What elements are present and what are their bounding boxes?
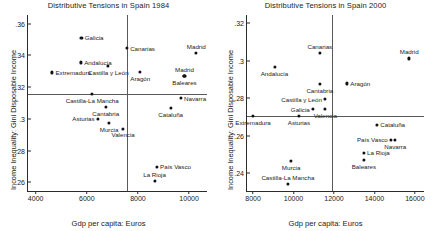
- tick-mark: [35, 191, 36, 194]
- y-axis-tick: .28: [234, 95, 247, 102]
- data-point: [155, 165, 158, 168]
- data-point-label: Cantabria: [92, 110, 119, 117]
- y-axis-tick: .26: [234, 132, 247, 139]
- data-point-label: Castilla-La Mancha: [261, 174, 314, 181]
- data-point-label: Galicia: [85, 34, 104, 41]
- y-axis-tick: .28: [15, 147, 28, 154]
- panel-spain-1984: Distributive Tensions in Spain 1984 Inco…: [0, 0, 217, 231]
- tick-mark: [247, 135, 250, 136]
- tick-mark: [374, 191, 375, 194]
- data-point-label: Cataluña: [158, 111, 183, 118]
- plot-area: .26.28.3.32.34.3640006000800010000Galici…: [27, 15, 207, 192]
- data-point-label: Aragón: [130, 75, 150, 82]
- tick-mark: [414, 191, 415, 194]
- x-axis-tick: 14000: [365, 191, 384, 202]
- data-point-label: Andalucía: [261, 70, 289, 77]
- data-point: [362, 151, 365, 154]
- tick-mark: [189, 191, 190, 194]
- x-axis-tick: 4000: [28, 191, 44, 202]
- tick-mark: [247, 98, 250, 99]
- data-point-label: Baleares: [172, 79, 196, 86]
- data-point-label: Extremadura: [55, 69, 90, 76]
- data-point-label: Canarias: [130, 45, 155, 52]
- data-point: [179, 97, 182, 100]
- data-point: [169, 106, 172, 109]
- data-point: [51, 71, 54, 74]
- data-point: [139, 70, 142, 73]
- data-point-label: País Vasco: [160, 163, 191, 170]
- data-point-label: Baleares: [352, 163, 376, 170]
- data-point: [80, 36, 83, 39]
- data-point: [323, 98, 326, 101]
- tick-mark: [247, 23, 250, 24]
- x-axis-label: Gdp per capita: Euros: [217, 219, 434, 228]
- x-axis-tick: 8000: [130, 191, 146, 202]
- data-point: [107, 121, 110, 124]
- x-axis-tick: 12000: [324, 191, 343, 202]
- data-point: [324, 108, 327, 111]
- data-point-label: Asturias: [288, 119, 310, 126]
- data-point: [389, 138, 392, 141]
- data-point: [125, 47, 128, 50]
- data-point: [408, 57, 411, 60]
- tick-mark: [28, 55, 31, 56]
- tick-mark: [28, 118, 31, 119]
- x-axis-tick: 16000: [405, 191, 424, 202]
- y-axis-tick: .24: [234, 170, 247, 177]
- data-point-label: Madrid: [400, 48, 419, 55]
- tick-mark: [247, 60, 250, 61]
- plot-area: .24.26.28.3.32800010000120001400016000Ca…: [246, 15, 424, 192]
- data-point-label: Cantabria: [306, 87, 333, 94]
- y-axis-tick: .32: [15, 84, 28, 91]
- data-point-label: Madrid: [187, 43, 206, 50]
- x-axis-tick: 10000: [284, 191, 303, 202]
- data-point: [286, 182, 289, 185]
- data-point-label: Asturias: [72, 115, 94, 122]
- data-point: [107, 64, 110, 67]
- tick-mark: [28, 150, 31, 151]
- y-axis-label: Income Inequality: Gini Disposable Incom…: [9, 50, 18, 190]
- data-point: [311, 108, 314, 111]
- data-point: [273, 65, 276, 68]
- x-axis-tick: 10000: [179, 191, 198, 202]
- data-point-label: País Vasco: [357, 136, 388, 143]
- data-point: [79, 61, 82, 64]
- tick-mark: [28, 182, 31, 183]
- data-point: [297, 115, 300, 118]
- y-axis-tick: .3: [238, 57, 247, 64]
- tick-mark: [247, 173, 250, 174]
- data-point: [375, 123, 378, 126]
- y-axis-tick: .26: [15, 179, 28, 186]
- y-axis-tick: .34: [15, 52, 28, 59]
- data-point: [362, 158, 365, 161]
- data-point-label: Navarra: [184, 95, 206, 102]
- data-point: [318, 82, 321, 85]
- y-axis-tick: .32: [234, 20, 247, 27]
- data-point: [122, 127, 125, 130]
- horizontal-reference-line: [28, 94, 207, 95]
- x-axis-tick: 8000: [245, 191, 261, 202]
- data-point-label: Valencia: [314, 112, 337, 119]
- tick-mark: [137, 191, 138, 194]
- data-point-label: La Rioja: [367, 149, 390, 156]
- data-point: [183, 74, 186, 77]
- tick-mark: [333, 191, 334, 194]
- tick-mark: [86, 191, 87, 194]
- data-point: [195, 51, 198, 54]
- data-point-label: Castilla y León: [281, 96, 322, 103]
- data-point: [394, 139, 397, 142]
- data-point-label: Galicia: [291, 106, 310, 113]
- panel-title: Distributive Tensions in Spain 1984: [0, 1, 217, 10]
- data-point-label: Cataluña: [380, 121, 405, 128]
- vertical-reference-line: [127, 15, 128, 191]
- data-point-label: Aragón: [350, 80, 370, 87]
- data-point: [153, 179, 156, 182]
- panel-spain-2000: Distributive Tensions in Spain 2000 Inco…: [217, 0, 434, 231]
- x-axis-tick: 6000: [79, 191, 95, 202]
- data-point-label: Valencia: [111, 131, 134, 138]
- data-point-label: Murcia: [282, 164, 301, 171]
- panel-title: Distributive Tensions in Spain 2000: [217, 1, 434, 10]
- data-point-label: Castilla-La Mancha: [66, 97, 119, 104]
- vertical-reference-line: [332, 15, 333, 191]
- data-point-label: Madrid: [175, 66, 194, 73]
